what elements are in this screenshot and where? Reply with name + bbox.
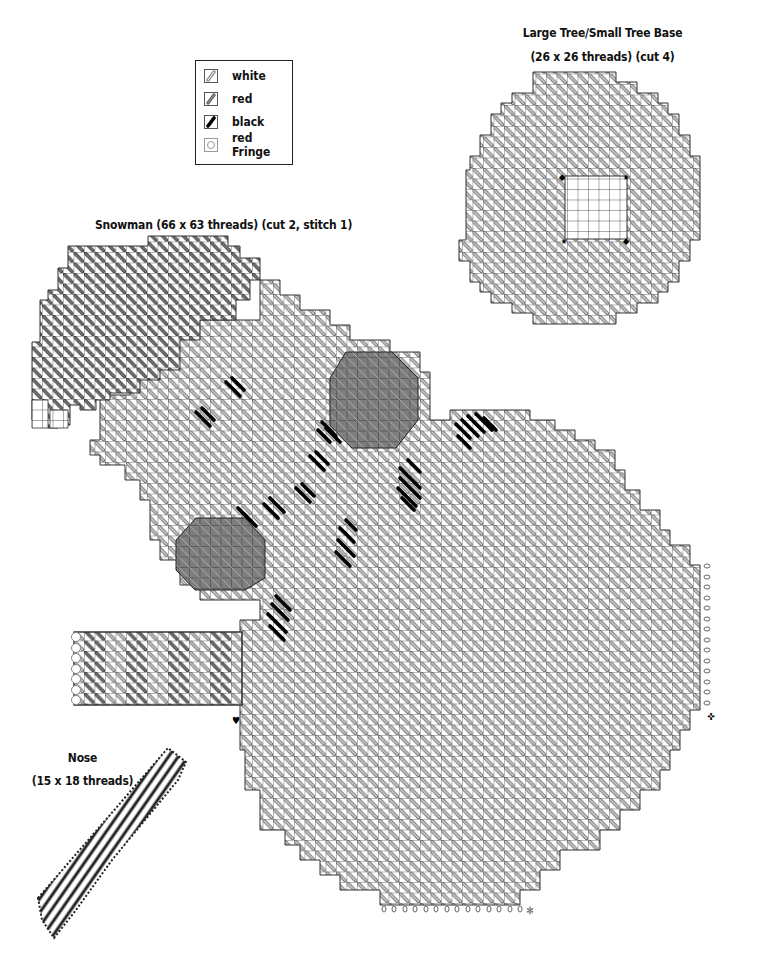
asterisk-marker: ✻ (526, 905, 534, 916)
right-fringe (704, 564, 710, 705)
diamond-marker: ◆ (559, 172, 566, 182)
nose-chart (38, 748, 186, 938)
snowman-cheek-right (330, 352, 418, 448)
star-marker: ★ (561, 237, 567, 246)
tree-base-center-hole (565, 176, 627, 239)
snowman-arm-chart (72, 632, 243, 705)
star-marker: ★ (623, 173, 629, 182)
diamond-marker: ◆ (623, 236, 630, 246)
cross-marker: ✜ (707, 711, 715, 722)
stitch-charts: ◆ ★ ★ ◆ ✜ (0, 0, 763, 957)
heart-marker: ♥ (232, 715, 240, 726)
tree-base-chart: ◆ ★ ★ ◆ (459, 72, 700, 324)
bottom-fringe (382, 906, 522, 912)
snowman-cheek-left (176, 518, 265, 590)
